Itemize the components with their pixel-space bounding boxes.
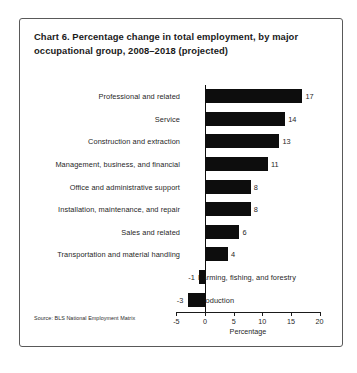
- bar-row: Installation, maintenance, and repair8: [20, 198, 344, 221]
- bar-row: Production-3: [20, 288, 344, 311]
- value-label: 8: [254, 182, 258, 191]
- value-label: 8: [254, 205, 258, 214]
- bar-row: Transportation and material handling4: [20, 243, 344, 266]
- value-label: -3: [177, 295, 184, 304]
- value-label: 11: [271, 160, 279, 169]
- category-label: Service: [155, 114, 180, 123]
- chart-title: Chart 6. Percentage change in total empl…: [34, 30, 322, 57]
- value-label: 14: [288, 114, 296, 123]
- bar-row: Management, business, and financial11: [20, 153, 344, 176]
- category-label: Office and administrative support: [70, 182, 180, 191]
- bar: [205, 180, 251, 194]
- category-label: Professional and related: [99, 92, 180, 101]
- value-label: 17: [305, 92, 313, 101]
- value-label: -1: [188, 273, 195, 282]
- x-axis-tick-label: 10: [258, 317, 266, 326]
- bar-row: Office and administrative support8: [20, 175, 344, 198]
- bar-row: Sales and related6: [20, 221, 344, 244]
- source-note: Source: BLS National Employment Matrix: [34, 315, 135, 321]
- bar: [205, 112, 285, 126]
- value-label: 13: [282, 137, 290, 146]
- bar: [205, 134, 279, 148]
- bar: [205, 89, 302, 103]
- bar-row: Service14: [20, 108, 344, 131]
- value-label: 4: [231, 250, 235, 259]
- x-axis-tick: [320, 312, 321, 316]
- bar: [205, 202, 251, 216]
- chart-panel: Chart 6. Percentage change in total empl…: [19, 18, 343, 347]
- bar-row: Construction and extraction13: [20, 130, 344, 153]
- x-axis-tick-label: 15: [287, 317, 295, 326]
- x-axis-title: Percentage: [230, 327, 267, 336]
- x-axis-tick: [262, 312, 263, 316]
- category-label: Farming, fishing, and forestry: [198, 273, 296, 282]
- category-label: Transportation and material handling: [57, 250, 180, 259]
- x-axis-tick-label: 0: [203, 317, 207, 326]
- bar: [188, 293, 205, 307]
- x-axis-line: [176, 312, 319, 313]
- bar: [199, 270, 205, 284]
- x-axis-tick-label: -5: [173, 317, 179, 326]
- x-axis-tick: [205, 312, 206, 316]
- x-axis-tick-label: 5: [232, 317, 236, 326]
- category-label: Sales and related: [121, 227, 180, 236]
- x-axis-tick: [234, 312, 235, 316]
- value-label: 6: [242, 227, 246, 236]
- x-axis-tick: [291, 312, 292, 316]
- category-label: Installation, maintenance, and repair: [58, 205, 180, 214]
- bar-row: Professional and related17: [20, 85, 344, 108]
- x-axis-tick: [176, 312, 177, 316]
- bar: [205, 225, 239, 239]
- category-label: Construction and extraction: [88, 137, 180, 146]
- category-label: Management, business, and financial: [55, 160, 180, 169]
- plot-area: Professional and related17Service14Const…: [20, 85, 344, 315]
- bar: [205, 157, 268, 171]
- bar-row: Farming, fishing, and forestry-1: [20, 266, 344, 289]
- bar: [205, 247, 228, 261]
- x-axis-tick-label: 20: [316, 317, 324, 326]
